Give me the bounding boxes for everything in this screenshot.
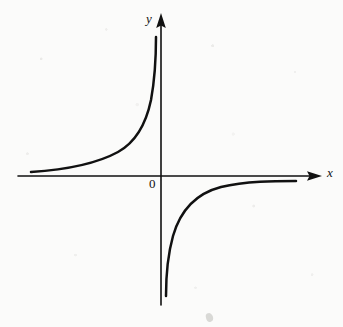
hyperbola-figure: y x 0 [0,0,343,327]
y-axis-label: y [146,12,152,25]
coordinate-plot [0,0,343,327]
origin-label: 0 [149,177,156,190]
x-axis-label: x [327,166,333,179]
curve-lower-right-branch [166,181,296,296]
curve-upper-left-branch [31,37,156,172]
